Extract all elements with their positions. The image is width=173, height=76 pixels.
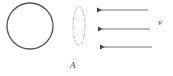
surface-label: A <box>70 60 76 70</box>
velocity-label: v <box>158 17 162 27</box>
solid-circle <box>7 3 53 49</box>
diagram-canvas <box>0 0 173 76</box>
dotted-ellipse-surface <box>73 7 85 45</box>
